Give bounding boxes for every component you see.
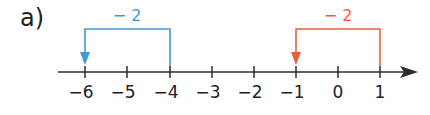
number-line-axis: [58, 66, 418, 78]
arrow-down-icon: [291, 52, 301, 65]
number-line-diagram: −6−5−4−3−2−101 − 2 − 2: [0, 0, 430, 115]
arrow-down-icon: [80, 52, 90, 65]
tick-label: −4: [153, 82, 178, 102]
tick-label: −5: [110, 82, 135, 102]
jump-blue: − 2: [80, 6, 170, 66]
jump-label: − 2: [324, 6, 353, 25]
tick-label: 0: [333, 82, 344, 102]
tick-label: −6: [68, 82, 93, 102]
tick-label: −3: [195, 82, 220, 102]
jump-label: − 2: [113, 6, 142, 25]
tick-label: −2: [237, 82, 262, 102]
jump-red: − 2: [291, 6, 380, 66]
tick-label: 1: [375, 82, 386, 102]
tick-label: −1: [279, 82, 304, 102]
